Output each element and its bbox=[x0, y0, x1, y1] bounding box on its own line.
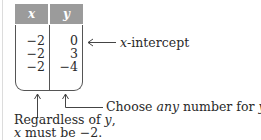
x-intercept-label: x-intercept bbox=[120, 37, 189, 49]
regardless-label-line2: x must be −2. bbox=[14, 127, 102, 139]
choose-any-label: Choose any number for y. bbox=[106, 101, 261, 113]
choose-arrow-icon bbox=[66, 94, 104, 108]
